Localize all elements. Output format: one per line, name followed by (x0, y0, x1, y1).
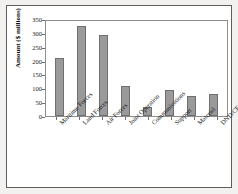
y-tick-mark (42, 62, 45, 63)
x-category-label: Air Forces (104, 121, 109, 126)
x-tick-mark (171, 117, 172, 120)
x-tick-mark (102, 117, 103, 120)
y-tick-label: 100 (32, 86, 42, 93)
x-category-label: Materiel (196, 121, 201, 126)
y-tick-label: 350 (32, 17, 42, 24)
y-tick-label: 150 (32, 72, 42, 79)
y-tick-mark (42, 103, 45, 104)
y-tick-mark (42, 48, 45, 49)
x-tick-mark (79, 117, 80, 120)
y-tick-mark (42, 34, 45, 35)
y-tick-mark (42, 75, 45, 76)
y-tick-label: 300 (32, 31, 42, 38)
plot-inner (46, 21, 227, 116)
x-category-label: Communications (150, 121, 155, 126)
x-tick-mark (148, 117, 149, 120)
y-tick-mark (42, 89, 45, 90)
x-tick-mark (125, 117, 126, 120)
x-category-label: DND/CF (219, 121, 224, 126)
y-tick-mark (42, 20, 45, 21)
bar-slot (114, 21, 136, 116)
x-category-label: Support (173, 121, 178, 126)
plot-area (45, 20, 228, 117)
bar-slot (203, 21, 225, 116)
x-category-label: Joint Operation (127, 121, 132, 126)
figure-frame: Amount ($ millions) 05010015020025030035… (6, 5, 232, 188)
x-tick-mark (194, 117, 195, 120)
y-tick-label: 200 (32, 58, 42, 65)
bar-slot (181, 21, 203, 116)
y-axis-tick-labels: 050100150200250300350 (21, 20, 42, 117)
bar-maritime-forces (55, 58, 64, 116)
chart-screenshot: Amount ($ millions) 05010015020025030035… (0, 0, 238, 194)
bar-slot (48, 21, 70, 116)
bar-series (46, 21, 227, 116)
x-tick-mark (217, 117, 218, 120)
x-tick-mark (56, 117, 57, 120)
y-tick-mark (42, 117, 45, 118)
x-category-label: Land Forces (81, 121, 86, 126)
y-tick-label: 250 (32, 44, 42, 51)
x-category-label: Maritime Forces (58, 121, 63, 126)
